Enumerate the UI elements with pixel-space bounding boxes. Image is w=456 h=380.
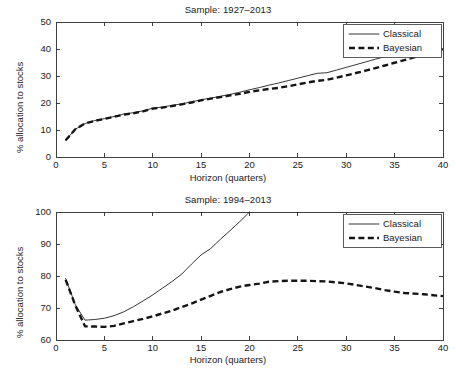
plot-area-bottom: 051015202530354060708090100ClassicalBaye…: [0, 190, 456, 380]
series-line-classical: [66, 212, 250, 320]
x-tick-label: 0: [53, 159, 58, 170]
y-tick-label: 100: [35, 206, 51, 217]
legend-label-classical: Classical: [383, 218, 421, 229]
y-tick-label: 70: [40, 302, 51, 313]
y-tick-label: 0: [46, 151, 51, 162]
legend-label-bayesian: Bayesian: [383, 42, 422, 53]
series-line-bayesian: [66, 280, 443, 327]
x-tick-label: 40: [438, 159, 449, 170]
x-tick-label: 25: [293, 159, 304, 170]
y-tick-label: 10: [40, 124, 51, 135]
y-tick-label: 40: [40, 43, 51, 54]
x-tick-label: 20: [244, 342, 255, 353]
x-tick-label: 15: [196, 342, 207, 353]
y-tick-label: 90: [40, 238, 51, 249]
plot-area-top: 051015202530354001020304050ClassicalBaye…: [0, 0, 456, 190]
x-tick-label: 5: [102, 159, 107, 170]
series-line-classical: [66, 49, 443, 141]
y-tick-label: 50: [40, 16, 51, 27]
series-line-bayesian: [66, 49, 443, 140]
y-tick-label: 20: [40, 97, 51, 108]
chart-panel-top: Sample: 1927–2013 % allocation to stocks…: [0, 0, 456, 190]
x-tick-label: 30: [341, 159, 352, 170]
legend-label-classical: Classical: [383, 28, 421, 39]
x-tick-label: 15: [196, 159, 207, 170]
y-tick-label: 60: [40, 334, 51, 345]
x-tick-label: 25: [293, 342, 304, 353]
x-tick-label: 35: [389, 342, 400, 353]
legend-label-bayesian: Bayesian: [383, 232, 422, 243]
x-tick-label: 10: [147, 342, 158, 353]
x-tick-label: 40: [438, 342, 449, 353]
x-tick-label: 30: [341, 342, 352, 353]
chart-panel-bottom: Sample: 1994–2013 % allocation to stocks…: [0, 190, 456, 380]
x-tick-label: 5: [102, 342, 107, 353]
y-tick-label: 30: [40, 70, 51, 81]
x-tick-label: 10: [147, 159, 158, 170]
figure-root: Sample: 1927–2013 % allocation to stocks…: [0, 0, 456, 380]
x-tick-label: 0: [53, 342, 58, 353]
x-tick-label: 20: [244, 159, 255, 170]
x-tick-label: 35: [389, 159, 400, 170]
y-tick-label: 80: [40, 270, 51, 281]
